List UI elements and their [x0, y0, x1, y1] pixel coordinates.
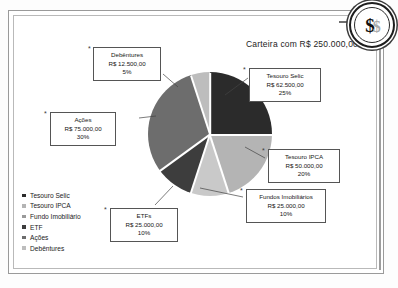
- dollar-glyph-primary: $: [365, 15, 373, 36]
- callout-tesouro-ipca[interactable]: Tesouro IPCA R$ 50.000,00 20%: [268, 149, 340, 183]
- callout-marker-etfs: *: [104, 206, 107, 213]
- callout-marker-tesouro-ipca: *: [262, 147, 265, 154]
- legend-label: Debêntures: [30, 245, 64, 252]
- callout-amount: R$ 62.500,00: [254, 81, 316, 90]
- chart-legend: Tesouro Selic Tesouro IPCA Fundo Imobili…: [22, 190, 81, 254]
- dollar-badge-logo: $$: [349, 2, 395, 48]
- callout-percent: 25%: [254, 89, 316, 98]
- legend-item-tesouro-selic[interactable]: Tesouro Selic: [22, 190, 81, 201]
- legend-item-tesouro-ipca[interactable]: Tesouro IPCA: [22, 201, 81, 212]
- legend-label: Fundo Imobiliário: [30, 213, 81, 220]
- callout-marker-tesouro-selic: *: [243, 66, 246, 73]
- legend-swatch-icon: [22, 246, 26, 250]
- legend-swatch-icon: [22, 225, 26, 229]
- callout-tesouro-selic[interactable]: Tesouro Selic R$ 62.500,00 25%: [249, 68, 321, 102]
- callout-amount: R$ 25.000,00: [115, 221, 173, 230]
- callout-amount: R$ 12.500,00: [98, 60, 156, 69]
- callout-amount: R$ 50.000,00: [273, 162, 335, 171]
- dollar-sign-icon: $$: [365, 16, 379, 35]
- slide-canvas: $$ Carteira com R$ 250.000,00: [0, 0, 398, 288]
- callout-marker-debentures: *: [88, 45, 91, 52]
- dollar-glyph-shadow: $: [373, 18, 379, 35]
- legend-label: Tesouro IPCA: [30, 202, 71, 209]
- legend-item-debentures[interactable]: Debêntures: [22, 243, 81, 254]
- legend-label: Ações: [30, 234, 48, 241]
- callout-title: ETFs: [115, 212, 173, 221]
- callout-title: Fundos Imobiliários: [251, 193, 321, 202]
- legend-item-etf[interactable]: ETF: [22, 222, 81, 233]
- callout-percent: 20%: [273, 170, 335, 179]
- page-title: Carteira com R$ 250.000,00: [246, 39, 358, 49]
- callout-title: Debêntures: [98, 51, 156, 60]
- legend-swatch-icon: [22, 215, 26, 219]
- logo-stem-line: [379, 22, 381, 270]
- callout-acoes[interactable]: Ações R$ 75.000,00 30%: [50, 112, 116, 146]
- callout-percent: 10%: [115, 229, 173, 238]
- callout-fundos-imobiliarios[interactable]: Fundos Imobiliários R$ 25.000,00 10%: [246, 189, 326, 223]
- callout-title: Ações: [55, 116, 111, 125]
- callout-title: Tesouro IPCA: [273, 153, 335, 162]
- callout-marker-acoes: *: [44, 110, 47, 117]
- callout-amount: R$ 75.000,00: [55, 125, 111, 134]
- pie-separator: [209, 73, 211, 135]
- legend-item-acoes[interactable]: Ações: [22, 232, 81, 243]
- legend-swatch-icon: [22, 204, 26, 208]
- legend-swatch-icon: [22, 194, 26, 198]
- callout-title: Tesouro Selic: [254, 72, 316, 81]
- callout-percent: 10%: [251, 210, 321, 219]
- callout-debentures[interactable]: Debêntures R$ 12.500,00 5%: [93, 47, 161, 81]
- callout-percent: 30%: [55, 133, 111, 142]
- callout-etfs[interactable]: ETFs R$ 25.000,00 10%: [110, 208, 178, 242]
- legend-item-fundo-imobiliario[interactable]: Fundo Imobiliário: [22, 211, 81, 222]
- legend-label: Tesouro Selic: [30, 192, 70, 199]
- callout-amount: R$ 25.000,00: [251, 202, 321, 211]
- pie-separator: [210, 134, 272, 136]
- legend-label: ETF: [30, 224, 42, 231]
- callout-percent: 5%: [98, 68, 156, 77]
- callout-marker-fundos-imobiliarios: *: [240, 187, 243, 194]
- legend-swatch-icon: [22, 236, 26, 240]
